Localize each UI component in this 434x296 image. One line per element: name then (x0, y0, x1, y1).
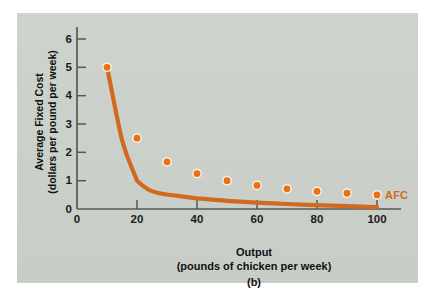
x-tick-label-60: 60 (242, 213, 272, 225)
y-tick-label-4: 4 (56, 89, 72, 101)
x-tick-label-80: 80 (302, 213, 332, 225)
x-tick-label-0: 0 (62, 213, 92, 225)
x-tick-label-40: 40 (182, 213, 212, 225)
series-label-afc: AFC (385, 189, 408, 201)
x-tick-label-20: 20 (122, 213, 152, 225)
y-tick-label-5: 5 (56, 61, 72, 73)
y-tick-label-6: 6 (56, 33, 72, 45)
figure-container: Average Fixed Cost (dollars per pound pe… (0, 0, 434, 296)
y-tick-label-3: 3 (56, 118, 72, 130)
y-tick-label-2: 2 (56, 146, 72, 158)
afc-data-markers (102, 62, 382, 199)
x-tick-label-100: 100 (362, 213, 392, 225)
afc-curve (107, 67, 377, 207)
axis-lines (77, 27, 401, 209)
y-tick-label-1: 1 (56, 174, 72, 186)
y-tick-marks (77, 39, 86, 181)
